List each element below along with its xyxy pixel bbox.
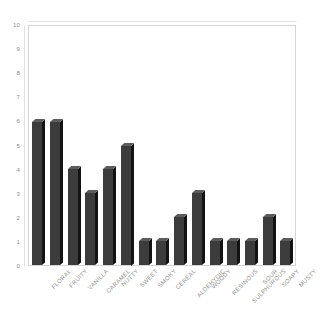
- bar-side-face: [131, 143, 134, 265]
- bar[interactable]: [210, 241, 220, 265]
- y-axis-tick-label: 4: [16, 167, 20, 173]
- bar-side-face: [113, 167, 116, 265]
- bar-side-face: [166, 239, 169, 265]
- bar[interactable]: [227, 241, 237, 265]
- x-axis-tick-label: MUSTY: [298, 268, 318, 288]
- bar-side-face: [290, 239, 293, 265]
- bar[interactable]: [103, 169, 113, 265]
- y-axis-tick-label: 5: [16, 143, 20, 149]
- bar-side-face: [60, 119, 63, 265]
- bar-side-face: [42, 119, 45, 265]
- x-axis: FLORALFRUITYVANILLACARAMELNUTTYSWEETSMOK…: [29, 268, 295, 323]
- y-axis-tick-label: 1: [16, 239, 20, 245]
- bar[interactable]: [280, 241, 290, 265]
- y-axis-tick-label: 10: [13, 22, 20, 28]
- y-axis-tick-label: 0: [16, 263, 20, 269]
- y-axis-tick-label: 3: [16, 191, 20, 197]
- bar-side-face: [220, 239, 223, 265]
- bar-side-face: [273, 215, 276, 265]
- x-axis-tick-label: RESINOUS: [230, 268, 258, 296]
- bar[interactable]: [263, 217, 273, 265]
- bar[interactable]: [121, 146, 131, 266]
- bar[interactable]: [50, 122, 60, 265]
- bar-chart: 109876543210 FLORALFRUITYVANILLACARAMELN…: [0, 0, 327, 323]
- bar[interactable]: [192, 193, 202, 265]
- bar[interactable]: [85, 193, 95, 265]
- bar[interactable]: [139, 241, 149, 265]
- bar-side-face: [95, 191, 98, 265]
- y-axis-tick-label: 8: [16, 70, 20, 76]
- bar-side-face: [149, 239, 152, 265]
- x-axis-tick-label: CEREAL: [175, 268, 197, 290]
- bars-layer: [29, 26, 295, 265]
- bar[interactable]: [174, 217, 184, 265]
- bar-side-face: [255, 239, 258, 265]
- bar[interactable]: [68, 169, 78, 265]
- bar-side-face: [237, 239, 240, 265]
- y-axis-tick-label: 2: [16, 215, 20, 221]
- bar[interactable]: [245, 241, 255, 265]
- y-axis-tick-label: 6: [16, 118, 20, 124]
- x-axis-tick-label: SWEET: [139, 268, 159, 288]
- bar[interactable]: [32, 122, 42, 265]
- y-axis: 109876543210: [0, 25, 24, 266]
- y-axis-tick-label: 7: [16, 94, 20, 100]
- bar-side-face: [184, 215, 187, 265]
- bar-side-face: [78, 167, 81, 265]
- bar-side-face: [202, 191, 205, 265]
- y-axis-tick-label: 9: [16, 46, 20, 52]
- bar[interactable]: [156, 241, 166, 265]
